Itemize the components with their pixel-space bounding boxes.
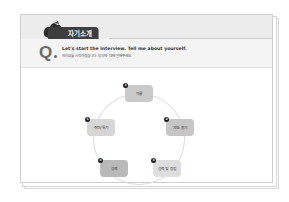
step-number: 2 (164, 117, 169, 122)
diagram-node-5: 5 취미/특기 (87, 119, 115, 136)
step-number: 4 (98, 158, 103, 163)
question-korean: 인터뷰를 시작하겠습니다. 당신에 대해 말해주세요. (62, 53, 132, 58)
node-label: 취미/특기 (94, 125, 107, 130)
diagram-node-2: 2 지원 동기 (166, 119, 194, 136)
question-marker-dot (54, 55, 57, 58)
node-label: 지원 동기 (173, 125, 186, 130)
step-number: 1 (123, 83, 128, 88)
question-english: Let's start the interview. Tell me about… (62, 46, 187, 51)
diagram-node-1: 1 이름 (125, 85, 153, 102)
node-label: 이름 (136, 91, 142, 96)
question-band (21, 39, 272, 68)
diagram-node-3: 3 성격 및 장점 (153, 160, 181, 177)
question-marker: Q (39, 43, 52, 63)
node-label: 성격 (111, 166, 117, 171)
diagram-node-4: 4 성격 (100, 160, 128, 177)
node-label: 성격 및 장점 (158, 166, 175, 171)
step-number: 5 (85, 117, 90, 122)
slide-page: 자기소개 Q Let's start the interview. Tell m… (20, 14, 273, 183)
step-number: 3 (151, 158, 156, 163)
